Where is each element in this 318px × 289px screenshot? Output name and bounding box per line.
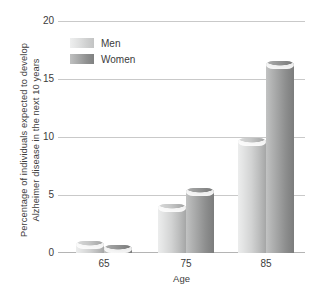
y-tick-5: 5 (14, 190, 54, 200)
bar-body (238, 142, 266, 253)
bar-men-85 (238, 138, 266, 253)
bar-cap-highlight (266, 61, 294, 69)
legend-label-women: Women (101, 54, 135, 65)
bar-body (158, 208, 186, 253)
legend-item-men: Men (70, 36, 160, 50)
bar-women-75 (186, 188, 214, 253)
bar-cap-highlight (238, 138, 266, 146)
y-tick-15: 15 (14, 74, 54, 84)
x-tick-85: 85 (236, 258, 296, 270)
y-tick-10: 10 (14, 132, 54, 142)
legend-item-women: Women (70, 52, 160, 66)
bar-chart: Percentage of individuals expected to de… (0, 0, 318, 289)
x-axis-title: Age (58, 273, 305, 284)
x-tick-65: 65 (74, 258, 134, 270)
bar-cap-highlight (76, 241, 104, 249)
legend-swatch-men-icon (70, 38, 94, 48)
x-tick-75: 75 (156, 258, 216, 270)
legend-label-men: Men (101, 38, 120, 49)
bar-cap-highlight (104, 245, 132, 253)
y-tick-0: 0 (14, 248, 54, 258)
gridline-20 (58, 21, 305, 22)
y-axis-tick-labels: 20 15 10 5 0 (10, 21, 54, 253)
bar-body (266, 65, 294, 253)
legend-swatch-women-icon (70, 54, 94, 64)
bar-women-85 (266, 61, 294, 253)
bar-body (186, 192, 214, 253)
y-tick-20: 20 (14, 16, 54, 26)
chart-legend: Men Women (70, 36, 160, 68)
bar-cap-highlight (186, 188, 214, 196)
bar-women-65 (104, 245, 132, 253)
x-axis-tick-labels: 65 75 85 (58, 258, 305, 272)
bar-men-65 (76, 241, 104, 253)
bar-cap-highlight (158, 204, 186, 212)
bar-men-75 (158, 204, 186, 253)
